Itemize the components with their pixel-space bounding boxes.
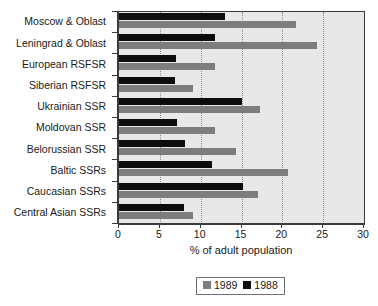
bar-group [119, 12, 364, 33]
category-label: Belorussian SSR [0, 138, 112, 159]
y-axis-tick [112, 117, 117, 118]
category-label: Ukrainian SSR [0, 96, 112, 117]
y-axis-tick [112, 11, 117, 12]
category-label: European RSFSR [0, 53, 112, 74]
bars-layer [119, 12, 364, 224]
y-axis-tick [112, 96, 117, 97]
category-label: Caucasian SSRs [0, 181, 112, 202]
bar-1988 [119, 34, 215, 41]
legend-label: 1988 [254, 280, 277, 291]
y-axis-tick [112, 181, 117, 182]
bar-1989 [119, 42, 317, 49]
x-axis-tick-label: 30 [348, 229, 378, 240]
bar-1988 [119, 98, 242, 105]
bar-group [119, 203, 364, 224]
bar-1988 [119, 140, 185, 147]
chart-legend: 19891988 [196, 277, 285, 295]
category-label: Moldovan SSR [0, 117, 112, 138]
black-square-icon [243, 281, 251, 289]
category-label: Siberian RSFSR [0, 75, 112, 96]
bar-group [119, 54, 364, 75]
bar-group [119, 76, 364, 97]
bar-1989 [119, 106, 260, 113]
bar-1989 [119, 63, 215, 70]
y-axis-tick [112, 138, 117, 139]
bar-group [119, 182, 364, 203]
bar-1988 [119, 204, 184, 211]
y-axis-tick [112, 223, 117, 224]
bar-1988 [119, 13, 225, 20]
bar-1989 [119, 169, 288, 176]
bar-group [119, 160, 364, 181]
bar-1989 [119, 212, 193, 219]
bar-1989 [119, 191, 258, 198]
bar-group [119, 118, 364, 139]
x-axis-tick-label: 25 [307, 229, 337, 240]
bar-chart: Moscow & OblastLeningrad & OblastEuropea… [0, 0, 378, 306]
bar-1989 [119, 21, 296, 28]
y-axis-tick [112, 202, 117, 203]
legend-entry: 1989 [203, 280, 237, 291]
plot-area [118, 11, 365, 225]
category-label: Moscow & Oblast [0, 11, 112, 32]
category-label: Central Asian SSRs [0, 202, 112, 223]
category-label: Baltic SSRs [0, 159, 112, 180]
bar-1988 [119, 119, 177, 126]
bar-1989 [119, 148, 236, 155]
y-axis-tick [112, 53, 117, 54]
x-axis-tick-label: 10 [185, 229, 215, 240]
category-label: Leningrad & Oblast [0, 32, 112, 53]
bar-1988 [119, 77, 175, 84]
bar-1988 [119, 55, 176, 62]
bar-group [119, 139, 364, 160]
x-axis-title: % of adult population [118, 245, 364, 256]
category-axis: Moscow & OblastLeningrad & OblastEuropea… [0, 11, 112, 223]
bar-group [119, 97, 364, 118]
bar-1989 [119, 85, 193, 92]
x-axis-tick-label: 15 [226, 229, 256, 240]
bar-1988 [119, 183, 243, 190]
y-axis-tick [112, 159, 117, 160]
x-axis-tick-label: 20 [266, 229, 296, 240]
y-axis-tick [112, 32, 117, 33]
y-axis-tick [112, 75, 117, 76]
bar-1988 [119, 161, 212, 168]
x-axis-tick-label: 0 [103, 229, 133, 240]
bar-1989 [119, 127, 215, 134]
x-axis-tick-label: 5 [144, 229, 174, 240]
bar-group [119, 33, 364, 54]
gray-square-icon [203, 281, 211, 289]
legend-label: 1989 [214, 280, 237, 291]
legend-entry: 1988 [243, 280, 277, 291]
